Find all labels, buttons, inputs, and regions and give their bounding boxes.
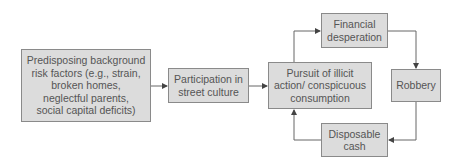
node-disposable-cash: Disposable cash (321, 123, 388, 157)
node-risk-factors: Predisposing background risk factors (e.… (21, 49, 151, 122)
edge-robbery-to-cash (389, 102, 416, 140)
edge-financial-to-robbery (388, 31, 416, 68)
node-financial-desperation: Financial desperation (321, 13, 388, 48)
node-street-culture: Participation in street culture (168, 68, 249, 103)
node-robbery: Robbery (391, 69, 441, 102)
edge-cash-to-illicit (294, 110, 321, 140)
node-illicit-action: Pursuit of illicit action/ conspicuous c… (268, 62, 372, 109)
edge-illicit-to-financial (294, 31, 320, 62)
